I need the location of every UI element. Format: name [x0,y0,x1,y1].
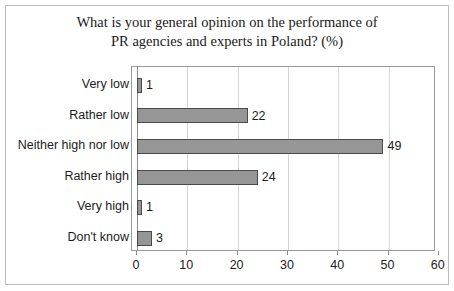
bar-row: 1 [137,70,153,101]
bar [137,170,258,185]
category-label: Rather high [16,170,129,183]
bar-value-label: 49 [387,140,401,153]
category-label: Rather low [16,109,129,122]
tick-label-40: 40 [330,259,344,272]
category-label: Don't know [16,231,129,244]
tick-mark-50 [388,251,389,255]
category-label: Very low [16,78,129,91]
bar-row: 1 [137,192,153,223]
bar-value-label: 1 [146,79,153,92]
bar-row: 22 [137,101,266,132]
bar [137,78,142,93]
tick-label-50: 50 [381,259,395,272]
chart-title: What is your general opinion on the perf… [6,13,448,51]
bar-row: 3 [137,223,163,254]
chart-figure: What is your general opinion on the perf… [5,5,449,285]
category-label: Very high [16,200,129,213]
bar [137,108,248,123]
category-label: Neither high nor low [16,139,129,152]
bar-value-label: 24 [262,171,276,184]
tick-mark-30 [287,251,288,255]
bar-row: 49 [137,131,401,162]
tick-mark-60 [438,251,439,255]
tick-mark-0 [136,251,137,255]
bar-row: 24 [137,162,276,193]
tick-label-10: 10 [179,259,193,272]
bar-value-label: 1 [146,201,153,214]
tick-label-30: 30 [280,259,294,272]
tick-mark-10 [186,251,187,255]
tick-label-0: 0 [133,259,140,272]
bar-value-label: 3 [156,232,163,245]
tick-mark-40 [337,251,338,255]
plot-area: 122492413 [131,66,435,251]
bar [137,231,152,246]
tick-label-20: 20 [230,259,244,272]
bars-layer: 122492413 [132,67,434,250]
chart-title-line-2: PR agencies and experts in Poland? (%) [6,32,448,51]
category-axis-labels: Very lowRather lowNeither high nor lowRa… [16,66,129,251]
tick-mark-20 [237,251,238,255]
bar [137,139,383,154]
chart-title-line-1: What is your general opinion on the perf… [6,13,448,32]
bar-value-label: 22 [252,110,266,123]
tick-label-60: 60 [431,259,445,272]
value-axis: 0102030405060 [131,251,435,281]
bar [137,200,142,215]
